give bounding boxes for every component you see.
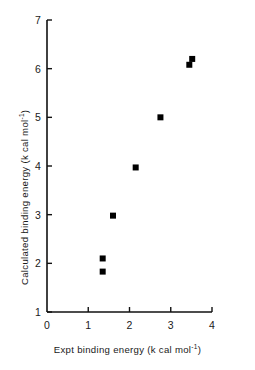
plot-area: 01234 1234567 bbox=[0, 0, 255, 370]
x-axis-title-text: Expt binding energy (k cal mol bbox=[54, 344, 192, 355]
data-point-marker bbox=[100, 255, 106, 261]
x-axis-title-close: ) bbox=[198, 344, 202, 355]
chart-figure: 01234 1234567 Expt binding energy (k cal… bbox=[0, 0, 255, 370]
y-axis-tick-label: 1 bbox=[27, 307, 41, 318]
x-axis-tick-label: 3 bbox=[164, 320, 178, 331]
y-axis-tick-label: 7 bbox=[27, 15, 41, 26]
y-axis-title-text: Calculated binding energy (k cal mol bbox=[19, 120, 30, 285]
data-points bbox=[100, 56, 196, 275]
data-point-marker bbox=[110, 213, 116, 219]
data-point-marker bbox=[189, 56, 195, 62]
data-point-marker bbox=[133, 164, 139, 170]
data-point-marker bbox=[186, 62, 192, 68]
x-axis-tick-label: 2 bbox=[123, 320, 137, 331]
x-axis-tick-label: 0 bbox=[40, 320, 54, 331]
y-axis-title: Calculated binding energy (k cal mol-1) bbox=[19, 110, 30, 285]
data-point-marker bbox=[100, 269, 106, 275]
x-axis-tick-label: 1 bbox=[81, 320, 95, 331]
x-axis-tick-label: 4 bbox=[205, 320, 219, 331]
y-axis-title-superscript: -1 bbox=[18, 113, 25, 119]
y-axis-title-close: ) bbox=[19, 110, 30, 114]
y-axis-tick-label: 6 bbox=[27, 64, 41, 75]
data-point-marker bbox=[157, 114, 163, 120]
x-axis-title: Expt binding energy (k cal mol-1) bbox=[0, 344, 255, 355]
